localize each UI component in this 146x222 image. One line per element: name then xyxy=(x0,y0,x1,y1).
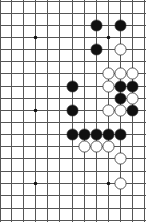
black-stone[interactable] xyxy=(67,129,78,140)
white-stone[interactable] xyxy=(115,68,126,79)
white-stone[interactable] xyxy=(103,141,114,152)
black-stone[interactable] xyxy=(91,129,102,140)
black-stone[interactable] xyxy=(127,81,138,92)
hoshi-point xyxy=(107,182,111,186)
black-stone[interactable] xyxy=(103,129,114,140)
white-stone[interactable] xyxy=(115,153,126,164)
white-stone[interactable] xyxy=(103,68,114,79)
white-stone[interactable] xyxy=(115,178,126,189)
hoshi-point xyxy=(34,36,38,40)
hoshi-point xyxy=(34,109,38,113)
black-stone[interactable] xyxy=(115,93,126,104)
black-stone[interactable] xyxy=(115,20,126,31)
white-stone[interactable] xyxy=(115,44,126,55)
hoshi-point xyxy=(107,36,111,40)
white-stone[interactable] xyxy=(115,105,126,116)
white-stone[interactable] xyxy=(103,105,114,116)
white-stone[interactable] xyxy=(79,141,90,152)
white-stone[interactable] xyxy=(127,68,138,79)
white-stone[interactable] xyxy=(103,81,114,92)
black-stone[interactable] xyxy=(67,105,78,116)
black-stone[interactable] xyxy=(67,81,78,92)
black-stone[interactable] xyxy=(91,44,102,55)
black-stone[interactable] xyxy=(115,81,126,92)
go-board-grid xyxy=(0,0,146,222)
black-stone[interactable] xyxy=(79,129,90,140)
white-stone[interactable] xyxy=(91,141,102,152)
black-stone[interactable] xyxy=(115,129,126,140)
black-stone[interactable] xyxy=(127,105,138,116)
black-stone[interactable] xyxy=(91,20,102,31)
hoshi-point xyxy=(34,182,38,186)
go-board xyxy=(0,0,146,222)
white-stone[interactable] xyxy=(127,93,138,104)
